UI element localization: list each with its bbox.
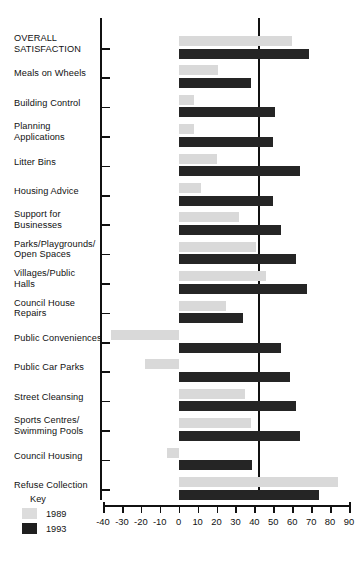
legend-title: Key [22, 494, 66, 504]
category-tick [100, 371, 110, 373]
category-label: Villages/Public Halls [14, 268, 106, 289]
value-tick [198, 505, 200, 513]
legend: Key 1989 1993 [22, 494, 66, 537]
bar-1993-1 [179, 78, 251, 88]
bar-1993-14 [179, 460, 253, 470]
plot-area [103, 18, 349, 500]
value-tick [330, 505, 332, 513]
category-tick [100, 48, 110, 50]
category-tick [100, 107, 110, 109]
value-tick [292, 505, 294, 513]
bar-1989-0 [179, 36, 293, 46]
legend-swatch-1989 [22, 508, 37, 519]
category-label: Council Housing [14, 451, 106, 462]
category-tick [100, 460, 110, 462]
value-tick [141, 505, 143, 513]
value-tick-label: 90 [336, 516, 362, 527]
bar-1993-6 [179, 225, 281, 235]
category-labels: OVERALL SATISFACTIONMeals on WheelsBuild… [0, 0, 100, 500]
bar-1989-10 [111, 330, 179, 340]
category-label: Housing Advice [14, 186, 106, 197]
category-tick [100, 166, 110, 168]
category-label: Sports Centres/ Swimming Pools [14, 415, 106, 436]
category-label: Building Control [14, 98, 106, 109]
category-label: Street Cleansing [14, 392, 106, 403]
bar-1993-9 [179, 313, 243, 323]
category-axis-line [100, 18, 102, 500]
bar-1989-8 [179, 271, 266, 281]
bar-1993-2 [179, 107, 276, 117]
bar-1989-1 [179, 65, 219, 75]
bar-1993-5 [179, 196, 274, 206]
category-tick [100, 77, 110, 79]
bar-1993-7 [179, 254, 296, 264]
value-tick [235, 505, 237, 513]
category-label: Planning Applications [14, 121, 106, 142]
bar-1993-13 [179, 431, 300, 441]
bar-1989-13 [179, 418, 251, 428]
bar-1989-5 [179, 183, 202, 193]
category-tick [100, 136, 110, 138]
value-tick [217, 505, 219, 513]
category-label: OVERALL SATISFACTION [14, 33, 106, 54]
bar-1989-14 [167, 448, 178, 458]
bar-1993-12 [179, 401, 296, 411]
value-tick [349, 502, 351, 513]
value-tick [273, 505, 275, 513]
category-tick [100, 313, 110, 315]
category-tick [100, 430, 110, 432]
category-tick [100, 224, 110, 226]
bar-1989-4 [179, 154, 217, 164]
value-tick [254, 505, 256, 513]
category-label: Public Conveniences [14, 333, 106, 344]
value-tick [179, 505, 181, 513]
bar-1993-11 [179, 372, 291, 382]
legend-swatch-1993 [22, 523, 37, 534]
legend-label-1993: 1993 [46, 524, 66, 534]
bar-1993-3 [179, 137, 274, 147]
category-label: Litter Bins [14, 157, 106, 168]
bar-1993-15 [179, 490, 319, 500]
category-label: Meals on Wheels [14, 68, 106, 79]
bar-1993-8 [179, 284, 308, 294]
category-label: Public Car Parks [14, 362, 106, 373]
category-tick [100, 489, 110, 491]
bar-1989-6 [179, 212, 240, 222]
value-tick [311, 505, 313, 513]
category-tick [100, 342, 110, 344]
legend-label-1989: 1989 [46, 509, 66, 519]
bar-1993-4 [179, 166, 300, 176]
bar-1993-10 [179, 343, 281, 353]
value-tick [160, 505, 162, 513]
value-tick [103, 502, 105, 513]
bar-1993-0 [179, 49, 310, 59]
category-label: Parks/Playgrounds/ Open Spaces [14, 239, 106, 260]
value-tick [122, 505, 124, 513]
bar-1989-9 [179, 301, 226, 311]
bar-1989-15 [179, 477, 338, 487]
category-tick [100, 401, 110, 403]
bar-1989-11 [145, 359, 179, 369]
legend-item-1989: 1989 [22, 507, 66, 520]
category-tick [100, 254, 110, 256]
bar-1989-7 [179, 242, 257, 252]
legend-item-1993: 1993 [22, 522, 66, 535]
category-label: Council House Repairs [14, 298, 106, 319]
category-tick [100, 195, 110, 197]
bar-chart: OVERALL SATISFACTIONMeals on WheelsBuild… [0, 0, 363, 565]
bar-1989-2 [179, 95, 194, 105]
bar-1989-3 [179, 124, 194, 134]
category-tick [100, 283, 110, 285]
category-label: Support for Businesses [14, 209, 106, 230]
category-label: Refuse Collection [14, 480, 106, 491]
bar-1989-12 [179, 389, 245, 399]
